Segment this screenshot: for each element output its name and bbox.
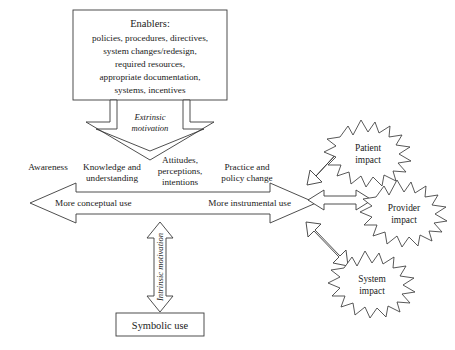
patient-impact-line-1: Patient <box>355 143 381 153</box>
patient-impact-line-2: impact <box>355 155 381 165</box>
provider-impact-line-1: Provider <box>388 203 421 213</box>
system-impact-line-2: impact <box>359 286 385 296</box>
continuum-left-label: More conceptual use <box>55 198 132 208</box>
label-awareness: Awareness <box>28 162 68 172</box>
intrinsic-motivation-label: Intrinsic motivation <box>155 233 165 302</box>
label-knowledge-line-1: Knowledge and <box>83 162 141 172</box>
diagram-canvas: Enablers: policies, procedures, directiv… <box>0 0 455 350</box>
enablers-line-2: system changes/redesign, <box>103 46 196 56</box>
label-attitudes-line-2: perceptions, <box>158 166 203 176</box>
diagram-vector-layer: Enablers: policies, procedures, directiv… <box>0 0 455 350</box>
enablers-line-3: required resources, <box>115 59 185 69</box>
label-practice-line-2: policy change <box>221 173 272 183</box>
arrow-to-system-impact <box>306 222 348 266</box>
label-knowledge-line-2: understanding <box>86 173 138 183</box>
provider-impact-star <box>360 180 447 247</box>
enablers-line-1: policies, procedures, directives, <box>92 33 208 43</box>
label-attitudes-line-1: Attitudes, <box>162 155 198 165</box>
extrinsic-motivation-line-1: Extrinsic <box>133 112 165 122</box>
patient-impact-star <box>324 120 411 187</box>
enablers-line-4: appropriate documentation, <box>99 72 200 82</box>
system-impact-line-1: System <box>358 274 386 284</box>
arrow-to-provider-impact <box>308 190 372 210</box>
enablers-heading: Enablers: <box>130 18 170 29</box>
extrinsic-motivation-line-2: motivation <box>132 123 169 133</box>
label-attitudes-line-3: intentions <box>162 177 199 187</box>
label-practice-line-1: Practice and <box>224 162 270 172</box>
symbolic-use-label: Symbolic use <box>132 320 189 331</box>
enablers-line-5: systems, incentives <box>115 85 186 95</box>
continuum-right-label: More instrumental use <box>208 198 291 208</box>
provider-impact-line-2: impact <box>391 215 417 225</box>
